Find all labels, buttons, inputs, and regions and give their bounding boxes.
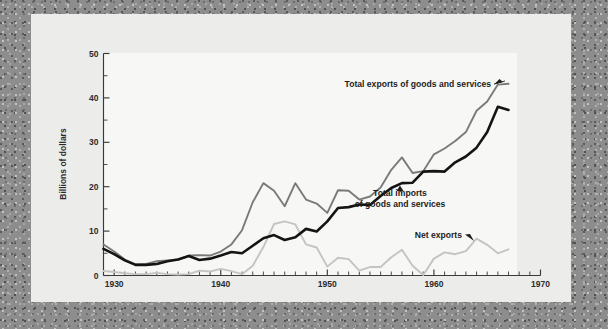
annotation-total-exports: Total exports of goods and services (345, 79, 505, 89)
y-axis-title: Billions of dollars (58, 128, 68, 200)
annotation-net-exports: Net exports (415, 230, 474, 241)
x-tick-label: 1960 (424, 279, 443, 289)
y-axis-tick-labels: 01020304050 (89, 49, 99, 281)
x-tick-label: 1940 (211, 279, 230, 289)
y-tick-label: 0 (94, 271, 99, 281)
annotation-net-exports-label: Net exports (415, 230, 462, 240)
y-axis-ticks (104, 54, 110, 276)
y-tick-label: 50 (89, 49, 99, 59)
y-tick-label: 20 (89, 182, 99, 192)
y-axis: 01020304050 Billions of dollars (58, 49, 110, 281)
annotation-net-exports-arrow (465, 234, 474, 241)
x-tick-label: 1950 (318, 279, 337, 289)
annotation-total-exports-label: Total exports of goods and services (345, 79, 492, 89)
y-tick-label: 10 (89, 226, 99, 236)
x-axis-tick-labels: 19301940195019601970 (105, 279, 551, 289)
y-tick-label: 30 (89, 137, 99, 147)
x-axis: 19301940195019601970 (104, 270, 551, 289)
x-tick-label: 1970 (531, 279, 550, 289)
series-line (104, 107, 509, 265)
line-chart: 01020304050 Billions of dollars 19301940… (0, 0, 608, 329)
annotation-total-imports-label-line2: of goods and services (355, 199, 446, 209)
figure-root: 01020304050 Billions of dollars 19301940… (0, 0, 608, 329)
data-series-group (104, 84, 509, 275)
x-tick-label: 1930 (105, 279, 124, 289)
y-tick-label: 40 (89, 93, 99, 103)
